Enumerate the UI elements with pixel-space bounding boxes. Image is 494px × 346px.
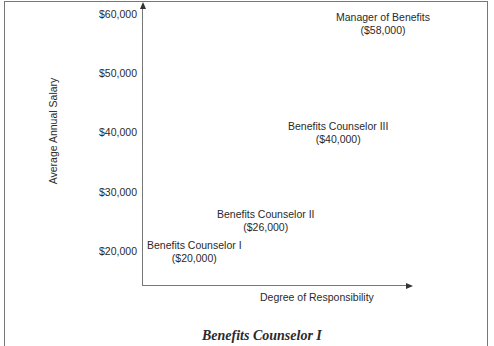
- x-axis-line: [142, 285, 408, 286]
- point-label: Benefits Counselor I: [147, 239, 242, 252]
- point-benefits-counselor-3: Benefits Counselor III ($40,000): [288, 120, 388, 146]
- point-benefits-counselor-2: Benefits Counselor II ($26,000): [217, 208, 314, 234]
- y-axis-label: Average Annual Salary: [47, 78, 59, 185]
- y-tick-60000: $60,000: [99, 8, 137, 20]
- point-manager-of-benefits: Manager of Benefits ($58,000): [336, 11, 430, 37]
- figure-caption: Benefits Counselor I: [202, 328, 322, 344]
- y-axis-arrow-icon: [140, 2, 146, 9]
- point-label: Benefits Counselor II: [217, 208, 314, 221]
- figure-frame: [4, 1, 488, 346]
- y-tick-20000: $20,000: [99, 245, 137, 257]
- y-tick-30000: $30,000: [99, 186, 137, 198]
- point-label: Benefits Counselor III: [288, 120, 388, 133]
- x-axis-label: Degree of Responsibility: [260, 291, 374, 303]
- point-benefits-counselor-1: Benefits Counselor I ($20,000): [147, 239, 242, 265]
- point-value: ($20,000): [147, 252, 242, 265]
- y-tick-40000: $40,000: [99, 126, 137, 138]
- x-axis-arrow-icon: [406, 283, 413, 289]
- point-label: Manager of Benefits: [336, 11, 430, 24]
- y-axis-line: [142, 7, 143, 286]
- point-value: ($40,000): [288, 133, 388, 146]
- y-tick-50000: $50,000: [99, 67, 137, 79]
- point-value: ($58,000): [336, 24, 430, 37]
- point-value: ($26,000): [217, 221, 314, 234]
